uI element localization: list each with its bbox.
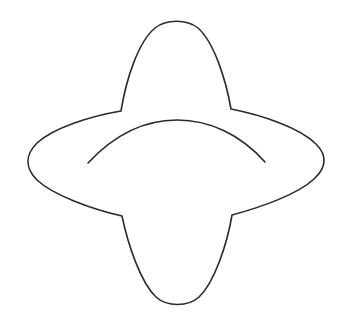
four-lobed-shape-drawing	[0, 0, 340, 326]
background	[0, 0, 340, 326]
